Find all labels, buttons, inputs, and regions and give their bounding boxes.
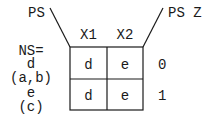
row-sublabel-1: (c) bbox=[0, 100, 62, 114]
column-header-x1: X1 bbox=[70, 28, 107, 42]
row-label-1: e bbox=[0, 86, 62, 100]
output-r0: 0 bbox=[158, 58, 166, 72]
row-sublabel-0: (a,b) bbox=[0, 71, 62, 85]
row-label-0: d bbox=[0, 57, 62, 71]
corner-left-label: PS bbox=[28, 6, 45, 20]
cell-r1-c1: e bbox=[107, 89, 143, 103]
cell-r1-c0: d bbox=[70, 89, 107, 103]
cell-r0-c0: d bbox=[70, 58, 107, 72]
cell-r0-c1: e bbox=[107, 58, 143, 72]
corner-right-label: PS Z bbox=[168, 6, 202, 20]
column-header-x2: X2 bbox=[107, 28, 143, 42]
output-r1: 1 bbox=[158, 89, 166, 103]
